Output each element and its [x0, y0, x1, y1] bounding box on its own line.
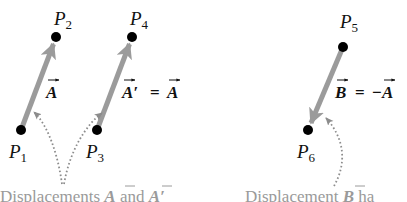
label-p2: P2	[53, 8, 72, 32]
svg-text:−: −	[372, 83, 382, 102]
point-p3	[92, 125, 102, 135]
point-p2	[51, 32, 61, 42]
label-vector-a: A	[45, 80, 59, 102]
svg-text:=: =	[150, 83, 160, 102]
svg-text:Displacements A and A′: Displacements A and A′	[0, 187, 165, 202]
svg-text:A: A	[166, 83, 178, 102]
svg-text:A: A	[381, 83, 393, 102]
caption-right: Displacement B ha	[245, 186, 375, 202]
svg-text:A′: A′	[121, 83, 138, 102]
point-p5	[338, 42, 348, 52]
point-p1	[16, 125, 26, 135]
label-p6: P6	[296, 141, 316, 165]
caption-left: Displacements A and A′	[0, 186, 172, 202]
label-vector-b-equals-neg-a: B = − A	[334, 80, 395, 102]
dotted-pointer-to-b	[326, 118, 342, 186]
label-vector-a-prime-equals-a: A′ = A	[121, 80, 180, 102]
svg-text:B: B	[334, 83, 346, 102]
label-p4: P4	[129, 8, 149, 32]
label-p5: P5	[339, 11, 358, 35]
point-p6	[303, 125, 313, 135]
svg-text:A: A	[45, 83, 57, 102]
point-p4	[127, 32, 137, 42]
svg-text:Displacement B ha: Displacement B ha	[245, 187, 375, 202]
label-p1: P1	[8, 141, 27, 165]
svg-text:=: =	[355, 83, 365, 102]
dotted-pointer-to-a	[34, 112, 62, 184]
label-p3: P3	[85, 141, 104, 165]
vector-displacement-diagram: P1 P2 P3 P4 P5 P6 A A′ = A B = − A Displ…	[0, 0, 407, 202]
